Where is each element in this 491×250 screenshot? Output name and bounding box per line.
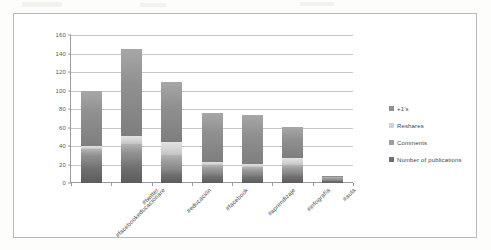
legend-swatch-icon: [389, 123, 394, 128]
bar-segment[interactable]: [282, 127, 303, 158]
bar-stack[interactable]: [121, 49, 142, 183]
legend-swatch-icon: [389, 106, 394, 111]
bar-stack[interactable]: [242, 115, 263, 183]
x-tick-mark: [313, 183, 314, 186]
y-axis-tick-label: 20: [59, 162, 66, 168]
bar-segment[interactable]: [161, 142, 182, 155]
y-axis-tick-label: 80: [59, 106, 66, 112]
x-axis-category-label: #facebook: [225, 187, 250, 212]
bar-segment[interactable]: [282, 165, 303, 172]
bar-stack[interactable]: [322, 176, 343, 183]
x-tick-mark: [152, 183, 153, 186]
x-tick-mark: [232, 183, 233, 186]
bar-segment[interactable]: [121, 49, 142, 136]
chart-page: 020406080100120140160 +1'sResharesCommen…: [0, 0, 491, 250]
legend-item[interactable]: Comments: [389, 134, 491, 151]
legend-label: +1's: [397, 106, 409, 112]
bar-stack[interactable]: [282, 127, 303, 183]
bar-segment[interactable]: [161, 168, 182, 183]
chart-legend: +1'sResharesCommentsNumber of publicatio…: [389, 100, 491, 168]
scan-artifact: [22, 2, 62, 7]
bar-segment[interactable]: [81, 157, 102, 183]
y-tick-mark: [68, 35, 71, 36]
scan-artifact: [140, 3, 166, 7]
legend-item[interactable]: +1's: [389, 100, 491, 117]
legend-item[interactable]: Number of publications: [389, 151, 491, 168]
y-tick-mark: [68, 146, 71, 147]
legend-label: Comments: [397, 140, 427, 146]
gridline: [71, 72, 353, 73]
x-axis-category-label: #educación: [185, 187, 212, 214]
gridline: [71, 35, 353, 36]
bar-segment[interactable]: [242, 173, 263, 183]
y-tick-mark: [68, 53, 71, 54]
x-axis-category-label: #aprendizaje: [267, 187, 297, 217]
legend-item[interactable]: Reshares: [389, 117, 491, 134]
bar-segment[interactable]: [121, 136, 142, 144]
plot-area: 020406080100120140160: [71, 35, 353, 183]
gridline: [71, 109, 353, 110]
legend-swatch-icon: [389, 140, 394, 145]
x-tick-mark: [192, 183, 193, 186]
bar-segment[interactable]: [242, 115, 263, 164]
y-tick-mark: [68, 127, 71, 128]
y-tick-mark: [68, 90, 71, 91]
legend-label: Number of publications: [397, 157, 462, 163]
y-axis-tick-label: 100: [55, 88, 66, 94]
y-axis-tick-label: 60: [59, 125, 66, 131]
chart-frame: 020406080100120140160 +1'sResharesCommen…: [13, 13, 477, 238]
gridline: [71, 91, 353, 92]
x-axis-category-label: #aula: [341, 187, 356, 202]
plot-inner: 020406080100120140160: [71, 35, 353, 183]
x-axis-category-label: #facebookeducacionare: [115, 187, 167, 239]
bar-segment[interactable]: [121, 144, 142, 155]
y-tick-mark: [68, 164, 71, 165]
y-axis-tick-label: 120: [55, 69, 66, 75]
y-axis-tick-label: 140: [55, 51, 66, 57]
x-axis-category-label: #infografía: [305, 187, 330, 212]
y-axis-tick-label: 40: [59, 143, 66, 149]
gridline: [71, 54, 353, 55]
bar-stack[interactable]: [161, 82, 182, 183]
legend-label: Reshares: [397, 123, 424, 129]
y-axis-tick-label: 0: [62, 180, 66, 186]
y-tick-mark: [68, 109, 71, 110]
bar-segment[interactable]: [161, 155, 182, 168]
bar-segment[interactable]: [322, 180, 343, 183]
bar-segment[interactable]: [161, 82, 182, 142]
bar-stack[interactable]: [81, 91, 102, 183]
x-tick-mark: [272, 183, 273, 186]
y-tick-mark: [68, 72, 71, 73]
scan-artifact: [300, 2, 334, 6]
bar-segment[interactable]: [81, 91, 102, 147]
legend-swatch-icon: [389, 157, 394, 162]
x-tick-mark: [71, 183, 72, 186]
x-tick-mark: [353, 183, 354, 186]
bar-segment[interactable]: [202, 172, 223, 183]
bar-segment[interactable]: [121, 155, 142, 183]
bar-segment[interactable]: [81, 149, 102, 157]
bar-stack[interactable]: [202, 113, 223, 183]
y-axis-tick-label: 160: [55, 32, 66, 38]
bar-segment[interactable]: [282, 172, 303, 183]
bar-segment[interactable]: [202, 113, 223, 162]
x-tick-mark: [111, 183, 112, 186]
